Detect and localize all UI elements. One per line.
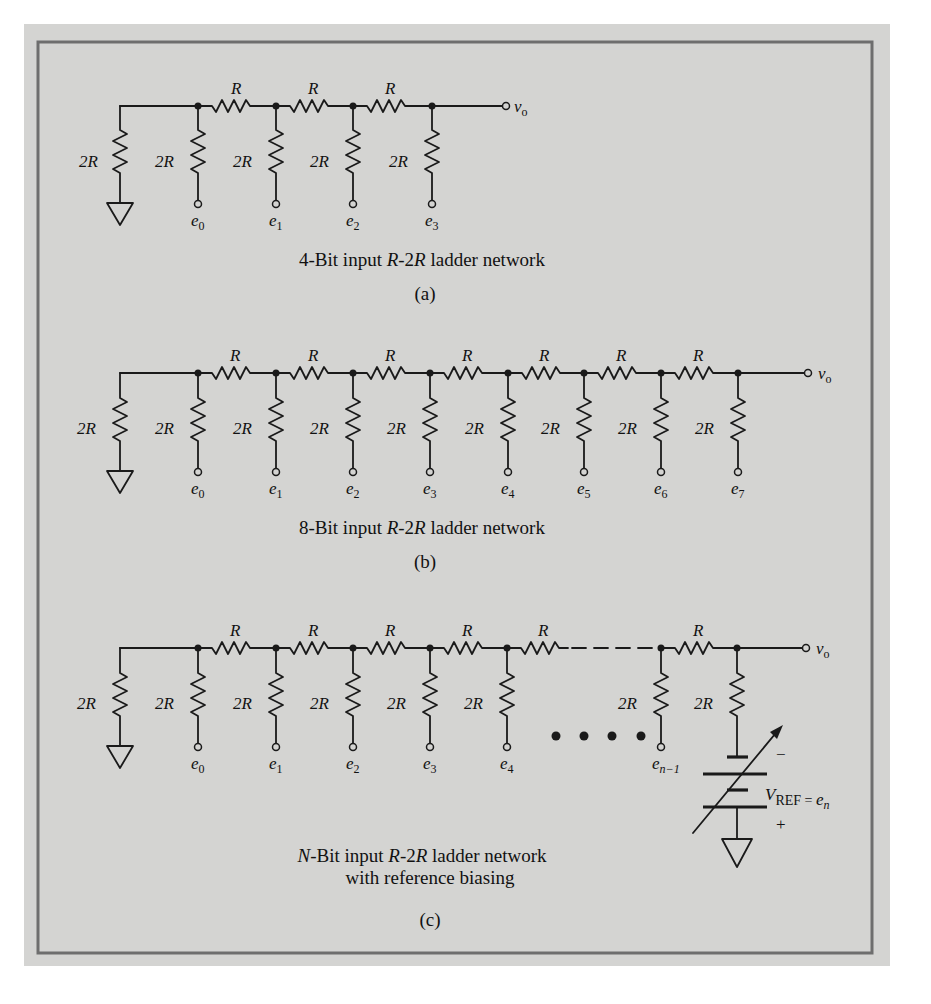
svg-text:R: R bbox=[615, 346, 627, 365]
svg-text:2R: 2R bbox=[310, 419, 330, 438]
svg-text:R: R bbox=[692, 621, 704, 640]
svg-text:2R: 2R bbox=[155, 694, 175, 713]
svg-text:2R: 2R bbox=[79, 152, 99, 171]
output-terminal bbox=[503, 103, 510, 110]
svg-text:2R: 2R bbox=[618, 419, 638, 438]
svg-text:R: R bbox=[537, 621, 549, 640]
svg-text:2R: 2R bbox=[233, 152, 253, 171]
svg-text:R: R bbox=[461, 346, 473, 365]
output-terminal bbox=[803, 645, 810, 652]
svg-text:2R: 2R bbox=[233, 694, 253, 713]
svg-text:2R: 2R bbox=[387, 694, 407, 713]
tag-b: (b) bbox=[414, 551, 436, 573]
svg-text:2R: 2R bbox=[464, 694, 484, 713]
figure-background bbox=[24, 24, 890, 966]
svg-text:R: R bbox=[384, 346, 396, 365]
svg-text:2R: 2R bbox=[389, 152, 409, 171]
caption-c-line2: with reference biasing bbox=[346, 867, 515, 888]
svg-text:2R: 2R bbox=[77, 419, 97, 438]
svg-text:2R: 2R bbox=[233, 419, 253, 438]
svg-text:R: R bbox=[307, 621, 319, 640]
svg-text:2R: 2R bbox=[155, 152, 175, 171]
svg-text:2R: 2R bbox=[310, 152, 330, 171]
svg-text:2R: 2R bbox=[694, 694, 714, 713]
svg-text:R: R bbox=[461, 621, 473, 640]
svg-text:2R: 2R bbox=[77, 694, 97, 713]
svg-text:2R: 2R bbox=[618, 694, 638, 713]
svg-text:2R: 2R bbox=[310, 694, 330, 713]
svg-text:R: R bbox=[229, 621, 241, 640]
svg-text:R: R bbox=[384, 79, 396, 98]
caption-a: 4-Bit input R-2R ladder network bbox=[299, 249, 545, 270]
svg-text:2R: 2R bbox=[541, 419, 561, 438]
tag-a: (a) bbox=[414, 283, 435, 305]
tag-c: (c) bbox=[419, 909, 440, 931]
svg-text:R: R bbox=[307, 346, 319, 365]
svg-text:2R: 2R bbox=[465, 419, 485, 438]
svg-text:R: R bbox=[538, 346, 550, 365]
svg-text:R: R bbox=[692, 346, 704, 365]
svg-text:−: − bbox=[776, 745, 786, 764]
caption-c: N-Bit input R-2R ladder network bbox=[296, 845, 547, 866]
svg-text:2R: 2R bbox=[155, 419, 175, 438]
svg-text:2R: 2R bbox=[695, 419, 715, 438]
caption-b: 8-Bit input R-2R ladder network bbox=[299, 517, 545, 538]
output-terminal bbox=[805, 370, 812, 377]
svg-text:R: R bbox=[230, 79, 242, 98]
r2r-ladder-figure: 2R R R R vo 2R e0 2R e1 bbox=[0, 0, 931, 1004]
svg-text:2R: 2R bbox=[387, 419, 407, 438]
svg-text:R: R bbox=[384, 621, 396, 640]
svg-text:R: R bbox=[307, 79, 319, 98]
svg-text:+: + bbox=[776, 815, 786, 834]
svg-text:R: R bbox=[229, 346, 241, 365]
